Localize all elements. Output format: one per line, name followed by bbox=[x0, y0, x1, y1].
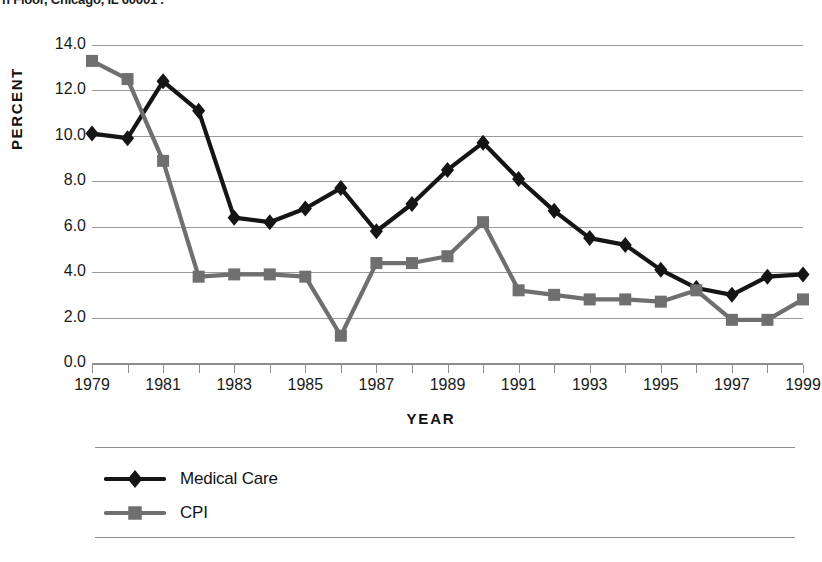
y-tick-label: 8.0 bbox=[40, 172, 86, 188]
x-tick-label: 1979 bbox=[62, 376, 122, 394]
chart-figure: PERCENT 0.02.04.06.08.010.012.014.0 1979… bbox=[0, 0, 822, 562]
gridline bbox=[92, 318, 803, 319]
x-axis-tick bbox=[163, 365, 164, 373]
y-tick-label: 0.0 bbox=[40, 354, 86, 370]
y-tick-label: 2.0 bbox=[40, 309, 86, 325]
x-axis-tick bbox=[661, 365, 662, 373]
x-tick-label: 1989 bbox=[418, 376, 478, 394]
x-axis-tick bbox=[199, 365, 200, 373]
x-tick-label: 1987 bbox=[346, 376, 406, 394]
x-tick-label: 1999 bbox=[773, 376, 822, 394]
legend-item[interactable]: Medical Care bbox=[104, 462, 504, 496]
x-axis-tick bbox=[732, 365, 733, 373]
x-axis-tick bbox=[696, 365, 697, 373]
x-axis-tick bbox=[412, 365, 413, 373]
x-tick-label: 1985 bbox=[275, 376, 335, 394]
x-tick-label: 1997 bbox=[702, 376, 762, 394]
x-axis-tick bbox=[376, 365, 377, 373]
y-tick-label: 12.0 bbox=[40, 81, 86, 97]
diamond-marker-icon bbox=[104, 466, 166, 492]
x-axis-tick bbox=[234, 365, 235, 373]
y-tick-label: 6.0 bbox=[40, 218, 86, 234]
x-axis-tick bbox=[519, 365, 520, 373]
x-tick-label: 1981 bbox=[133, 376, 193, 394]
x-axis-tick bbox=[448, 365, 449, 373]
legend-top-divider bbox=[95, 447, 795, 448]
gridline bbox=[92, 45, 803, 46]
chart-legend: Medical CareCPI bbox=[104, 462, 504, 530]
x-axis-tick bbox=[305, 365, 306, 373]
legend-item[interactable]: CPI bbox=[104, 496, 504, 530]
x-axis-tick bbox=[554, 365, 555, 373]
gridline bbox=[92, 136, 803, 137]
x-tick-label: 1993 bbox=[560, 376, 620, 394]
y-tick-label: 14.0 bbox=[40, 36, 86, 52]
x-axis-tick bbox=[483, 365, 484, 373]
y-tick-label: 4.0 bbox=[40, 263, 86, 279]
x-axis-tick bbox=[803, 365, 804, 373]
gridline bbox=[92, 272, 803, 273]
x-tick-label: 1995 bbox=[631, 376, 691, 394]
x-tick-label: 1983 bbox=[204, 376, 264, 394]
gridline bbox=[92, 90, 803, 91]
plot-area bbox=[92, 45, 803, 363]
y-axis-title: PERCENT bbox=[8, 67, 25, 150]
y-axis-tick-labels: 0.02.04.06.08.010.012.014.0 bbox=[30, 0, 86, 562]
legend-item-label: Medical Care bbox=[180, 469, 278, 489]
x-axis-tick bbox=[92, 365, 93, 373]
square-marker-icon bbox=[104, 500, 166, 526]
gridline bbox=[92, 227, 803, 228]
x-axis-title-label: YEAR bbox=[367, 410, 456, 427]
x-axis-tick bbox=[767, 365, 768, 373]
legend-bottom-divider bbox=[95, 537, 795, 538]
x-axis-title: YEAR bbox=[0, 410, 822, 427]
x-axis-tick bbox=[341, 365, 342, 373]
legend-item-label: CPI bbox=[180, 503, 208, 523]
gridline bbox=[92, 181, 803, 182]
x-axis-tick bbox=[128, 365, 129, 373]
x-axis-tick bbox=[625, 365, 626, 373]
x-tick-label: 1991 bbox=[489, 376, 549, 394]
y-tick-label: 10.0 bbox=[40, 127, 86, 143]
x-axis-tick bbox=[590, 365, 591, 373]
x-axis-tick bbox=[270, 365, 271, 373]
